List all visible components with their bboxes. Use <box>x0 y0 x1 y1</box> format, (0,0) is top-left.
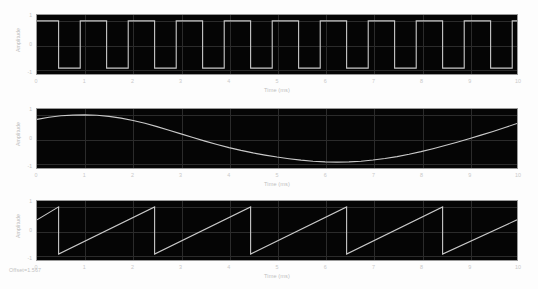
x-tick-sine-7: 7 <box>367 172 379 178</box>
x-tick-sine-1: 1 <box>78 172 90 178</box>
y-tick-square-0: 0 <box>20 41 32 47</box>
x-tick-sawtooth-7: 7 <box>367 264 379 270</box>
x-tick-square-6: 6 <box>319 78 331 84</box>
x-tick-sawtooth-4: 4 <box>223 264 235 270</box>
x-tick-square-7: 7 <box>367 78 379 84</box>
x-tick-square-5: 5 <box>271 78 283 84</box>
y-tick-sine-0: 0 <box>20 135 32 141</box>
x-axis-label-square: Time (ms) <box>237 87 317 93</box>
x-tick-square-8: 8 <box>416 78 428 84</box>
x-axis-label-sawtooth: Time (ms) <box>237 273 317 279</box>
x-tick-sine-3: 3 <box>175 172 187 178</box>
y-tick-sine-neg1: -1 <box>18 163 32 169</box>
waveform-panel-square: Amplitude 1 0 -1 0 1 2 3 4 5 6 7 <box>0 0 538 96</box>
x-tick-square-0: 0 <box>30 78 42 84</box>
x-tick-square-10: 10 <box>511 78 525 84</box>
x-tick-sawtooth-10: 10 <box>511 264 525 270</box>
plot-area-sawtooth <box>36 200 518 261</box>
x-tick-sine-5: 5 <box>271 172 283 178</box>
y-tick-sawtooth-0: 0 <box>20 227 32 233</box>
y-tick-sine-1: 1 <box>20 106 32 112</box>
x-tick-sine-4: 4 <box>223 172 235 178</box>
x-tick-sawtooth-8: 8 <box>416 264 428 270</box>
waveform-figure: Amplitude 1 0 -1 0 1 2 3 4 5 6 7 <box>0 0 538 289</box>
waveform-panel-sawtooth: Amplitude 1 0 -1 0 1 2 3 4 5 6 7 <box>0 186 538 289</box>
waveform-panel-sine: Amplitude 1 0 -1 0 1 2 3 4 5 6 7 <box>0 94 538 190</box>
y-tick-sawtooth-1: 1 <box>20 198 32 204</box>
x-tick-square-2: 2 <box>126 78 138 84</box>
x-tick-sawtooth-9: 9 <box>464 264 476 270</box>
x-tick-sawtooth-2: 2 <box>126 264 138 270</box>
y-tick-square-neg1: -1 <box>18 69 32 75</box>
x-tick-sine-10: 10 <box>511 172 525 178</box>
x-tick-sine-9: 9 <box>464 172 476 178</box>
x-tick-sine-2: 2 <box>126 172 138 178</box>
x-tick-sawtooth-6: 6 <box>319 264 331 270</box>
y-axis-label-square: Amplitude <box>15 17 21 63</box>
x-tick-square-4: 4 <box>223 78 235 84</box>
x-tick-sawtooth-3: 3 <box>175 264 187 270</box>
waveform-trace-sawtooth <box>37 201 517 260</box>
x-tick-square-9: 9 <box>464 78 476 84</box>
plot-area-sine <box>36 108 518 169</box>
plot-area-square <box>36 14 518 75</box>
x-tick-sine-8: 8 <box>416 172 428 178</box>
y-axis-label-sine: Amplitude <box>15 111 21 157</box>
x-tick-sawtooth-1: 1 <box>78 264 90 270</box>
x-tick-square-1: 1 <box>78 78 90 84</box>
x-tick-sine-6: 6 <box>319 172 331 178</box>
x-tick-sawtooth-5: 5 <box>271 264 283 270</box>
y-tick-sawtooth-neg1: -1 <box>18 255 32 261</box>
x-tick-sine-0: 0 <box>30 172 42 178</box>
y-tick-square-1: 1 <box>20 12 32 18</box>
waveform-trace-square <box>37 15 517 74</box>
y-axis-label-sawtooth: Amplitude <box>15 203 21 249</box>
offset-annotation: Offset=1.567 <box>9 267 41 273</box>
waveform-trace-sine <box>37 109 517 168</box>
x-tick-square-3: 3 <box>175 78 187 84</box>
